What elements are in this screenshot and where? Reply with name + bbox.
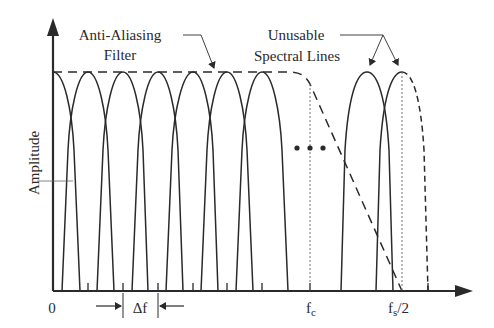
filter-label-line1: Anti-Aliasing [79,27,162,43]
spectral-lobe [132,72,183,291]
fc-label: fc [306,300,316,318]
filter-label-line2: Filter [104,47,137,63]
unusable-label-line2: Spectral Lines [254,48,340,64]
ellipsis-dots-icon [294,145,325,150]
y-axis-label: Amplitude [26,131,42,196]
x-axis-arrowhead-icon [455,285,473,297]
unusable-lobe-dashed-half [402,72,428,291]
anti-aliasing-spectrum-diagram: Anti-Aliasing Filter Unusable Spectral L… [0,0,494,328]
spectral-lobe [201,72,253,291]
spectral-lobe [97,72,148,291]
filter-leader-arrow-icon [183,35,214,68]
x-origin-label: 0 [48,300,56,316]
y-axis-arrowhead-icon [47,18,59,36]
unusable-leader-arrows-icon [340,35,398,65]
y-axis [47,18,59,291]
nyquist-label: fs/2 [388,300,409,318]
unusable-label-line1: Unusable [268,27,325,43]
spectral-lines [53,72,288,291]
x-ticks [88,283,428,291]
delta-f-marker: Δf [96,293,184,318]
unusable-lobe [376,72,402,291]
spectral-lobe [166,72,218,291]
x-axis [53,285,473,297]
spectral-lobe [62,72,114,291]
delta-f-label: Δf [133,300,148,316]
spectral-lobe [236,72,288,291]
